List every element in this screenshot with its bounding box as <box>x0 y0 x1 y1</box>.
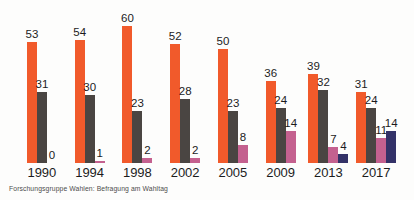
year-label-1994: 1994 <box>66 165 114 180</box>
value-label: 28 <box>179 85 192 98</box>
bar-series-pink-1998 <box>142 158 152 163</box>
value-label: 24 <box>274 94 287 107</box>
value-label: 52 <box>169 30 182 43</box>
bar-group-2005: 50238 <box>209 0 257 163</box>
year-label-2005: 2005 <box>209 165 257 180</box>
bar-series-darkgray-2013 <box>318 90 328 163</box>
bar-group-1990: 53310 <box>18 0 66 163</box>
year-label-2002: 2002 <box>161 165 209 180</box>
year-label-2009: 2009 <box>257 165 305 180</box>
value-label: 54 <box>73 26 86 39</box>
bar-col-series-darkgray-1994: 30 <box>85 81 95 163</box>
bar-group-1994: 54301 <box>66 0 114 163</box>
value-label: 53 <box>25 28 38 41</box>
bar-col-series-darkgray-1998: 23 <box>132 97 142 163</box>
value-label: 2 <box>144 144 150 157</box>
bar-col-series-pink-1994: 1 <box>95 147 105 163</box>
screenshot-root: 5331054301602325228250238362414393274312… <box>0 0 414 200</box>
bar-col-series-pink-2005: 8 <box>238 131 248 163</box>
bar-group-2002: 52282 <box>161 0 209 163</box>
value-label: 31 <box>355 78 368 91</box>
bar-group-1998: 60232 <box>114 0 162 163</box>
bar-col-series-navy-2017: 14 <box>386 117 396 163</box>
bar-group-2013: 393274 <box>305 0 353 163</box>
value-label: 23 <box>226 97 239 110</box>
value-label: 39 <box>307 60 320 73</box>
value-label: 60 <box>121 12 134 25</box>
bar-group-2009: 362414 <box>257 0 305 163</box>
value-label: 36 <box>264 67 277 80</box>
bar-series-pink-2009 <box>286 131 296 163</box>
bar-col-series-darkgray-2002: 28 <box>180 85 190 163</box>
bar-col-series-orange-2009: 36 <box>266 67 276 163</box>
x-axis: 19901994199820022005200920132017 <box>0 165 414 180</box>
bar-col-series-darkgray-2013: 32 <box>318 76 328 163</box>
value-label: 14 <box>284 117 297 130</box>
value-label: 32 <box>317 76 330 89</box>
year-label-2017: 2017 <box>352 165 400 180</box>
value-label: 4 <box>340 140 346 153</box>
bar-col-series-orange-1990: 53 <box>27 28 37 163</box>
source-caption: Forschungsgruppe Wahlen: Befragung am Wa… <box>9 185 168 192</box>
value-label: 7 <box>330 133 336 146</box>
bar-col-series-pink-1998: 2 <box>142 144 152 163</box>
year-label-1990: 1990 <box>18 165 66 180</box>
bar-col-series-orange-1998: 60 <box>122 12 132 163</box>
bar-series-pink-2002 <box>190 158 200 163</box>
year-label-2013: 2013 <box>305 165 353 180</box>
bar-chart: 5331054301602325228250238362414393274312… <box>0 0 414 200</box>
bar-col-series-orange-1994: 54 <box>75 26 85 163</box>
bar-col-series-pink-2013: 7 <box>328 133 338 163</box>
bar-col-series-orange-2017: 31 <box>356 78 366 163</box>
value-label: 24 <box>365 94 378 107</box>
plot-area: 5331054301602325228250238362414393274312… <box>0 0 414 163</box>
bar-series-darkgray-1998 <box>132 111 142 163</box>
value-label: 2 <box>192 144 198 157</box>
bar-series-pink-2013 <box>328 147 338 163</box>
value-label: 0 <box>49 149 55 162</box>
bar-series-pink-1994 <box>95 161 105 163</box>
bar-series-darkgray-1990 <box>37 92 47 163</box>
bar-series-orange-1990 <box>27 42 37 163</box>
bar-series-pink-2017 <box>376 138 386 163</box>
value-label: 23 <box>131 97 144 110</box>
bar-series-orange-2009 <box>266 81 276 163</box>
value-label: 30 <box>83 81 96 94</box>
bar-col-series-darkgray-1990: 31 <box>37 78 47 163</box>
value-label: 14 <box>385 117 398 130</box>
bar-series-navy-2017 <box>386 131 396 163</box>
bar-series-orange-1994 <box>75 40 85 163</box>
bar-series-darkgray-1994 <box>85 95 95 163</box>
bar-series-navy-2013 <box>338 154 348 163</box>
bar-col-series-pink-2009: 14 <box>286 117 296 163</box>
bar-series-orange-2002 <box>170 44 180 163</box>
bar-col-series-pink-1990: 0 <box>47 149 57 163</box>
bar-group-2017: 31241114 <box>352 0 400 163</box>
bar-col-series-darkgray-2005: 23 <box>228 97 238 163</box>
bar-series-orange-1998 <box>122 26 132 163</box>
value-label: 50 <box>216 35 229 48</box>
value-label: 8 <box>240 131 246 144</box>
bar-series-darkgray-2002 <box>180 99 190 163</box>
bar-col-series-navy-2013: 4 <box>338 140 348 163</box>
value-label: 1 <box>96 147 102 160</box>
bar-series-pink-2005 <box>238 145 248 163</box>
bar-series-darkgray-2005 <box>228 111 238 163</box>
bar-col-series-pink-2002: 2 <box>190 144 200 163</box>
year-label-1998: 1998 <box>114 165 162 180</box>
value-label: 31 <box>35 78 48 91</box>
